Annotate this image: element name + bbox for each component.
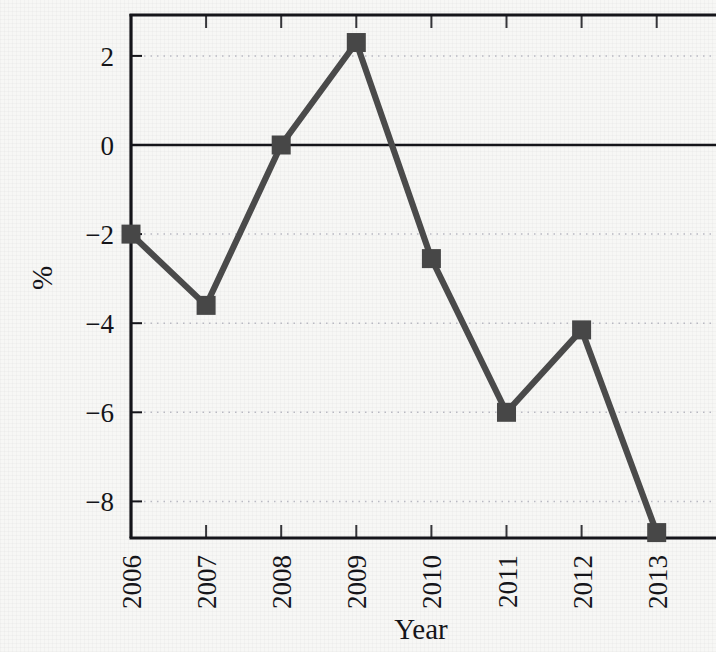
x-tick-label: 2011 [493,555,523,608]
y-axis-ticks [131,56,142,502]
data-point-marker [197,296,216,315]
x-tick-label: 2008 [267,555,297,609]
y-tick-label: −8 [85,487,114,517]
x-tick-label: 2007 [192,555,222,609]
x-tick-label: 2012 [568,555,598,609]
data-point-marker [572,320,591,339]
y-tick-label: −6 [85,398,114,428]
x-axis-ticks [206,525,657,538]
x-axis-title: Year [394,613,448,645]
data-point-marker [347,33,366,52]
y-tick-label: −4 [85,309,114,339]
data-point-marker [272,136,291,155]
y-axis-title: % [26,266,58,290]
x-tick-label: 2010 [417,555,447,609]
x-axis-ticks-top [206,15,657,28]
data-line [131,43,657,533]
data-point-marker [647,523,666,542]
data-point-markers [122,33,667,542]
y-tick-label: 0 [101,131,115,161]
x-tick-labels: 20062007200820092010201120122013 [117,555,673,609]
x-tick-label: 2009 [342,555,372,609]
chart-figure: 20−2−4−6−8 20062007200820092010201120122… [0,0,716,652]
y-tick-label: −2 [85,220,114,250]
data-point-marker [422,249,441,268]
x-tick-label: 2006 [117,555,147,609]
data-point-marker [497,403,516,422]
x-tick-label: 2013 [643,555,673,609]
line-chart-plot: 20−2−4−6−8 20062007200820092010201120122… [0,0,716,652]
data-point-marker [122,225,141,244]
y-tick-label: 2 [101,42,115,72]
y-tick-labels: 20−2−4−6−8 [85,42,114,518]
